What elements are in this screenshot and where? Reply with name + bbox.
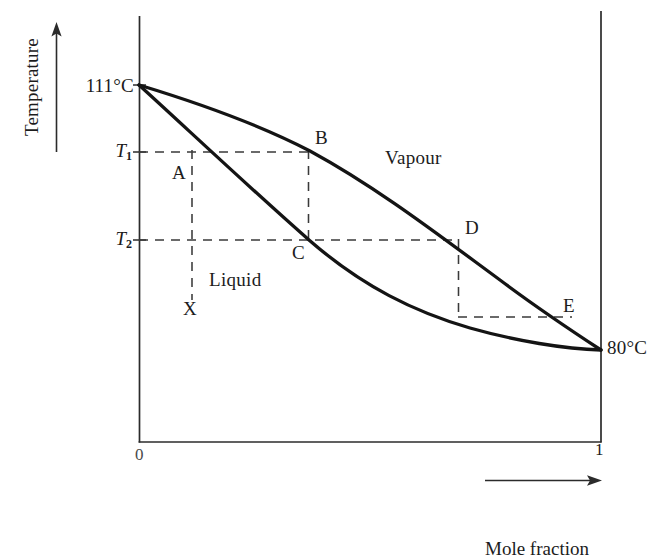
axis-frame [139, 11, 602, 443]
boiling-point-toluene-label: 111°C [60, 76, 134, 96]
boiling-point-benzene-label: 80°C [607, 338, 647, 358]
point-label-b: B [315, 128, 328, 148]
temperature-t2-label: T2 [88, 229, 132, 251]
temperature-t2-subscript: 2 [126, 237, 132, 251]
point-label-x: X [183, 299, 197, 319]
liquid-curve [139, 85, 601, 350]
point-label-c: C [292, 243, 305, 263]
temperature-t1-symbol: T [115, 140, 126, 161]
region-label-liquid: Liquid [209, 270, 261, 290]
mole-fraction-axis-arrow-icon [485, 475, 602, 486]
vapour-curve [139, 85, 601, 350]
region-label-vapour: Vapour [385, 148, 442, 168]
temperature-t1-subscript: 1 [126, 149, 132, 163]
point-label-a: A [172, 163, 186, 183]
construction-lines [139, 150, 572, 318]
phase-boundary-curves [139, 85, 601, 350]
x-axis-max-label: 1 [595, 441, 604, 459]
x-axis-title-line-1: Mole fraction [485, 538, 589, 555]
point-label-e: E [563, 296, 575, 316]
x-axis-title: Mole fraction of benzene [485, 492, 589, 555]
y-axis-title: Temperature [22, 22, 42, 152]
phase-diagram-figure: 111°C 80°C T1 T2 A B C D E X Liquid Vapo… [0, 0, 668, 555]
point-label-d: D [465, 218, 479, 238]
x-axis-min-label: 0 [135, 446, 144, 464]
temperature-t1-label: T1 [88, 141, 132, 163]
temperature-t2-symbol: T [115, 228, 126, 249]
